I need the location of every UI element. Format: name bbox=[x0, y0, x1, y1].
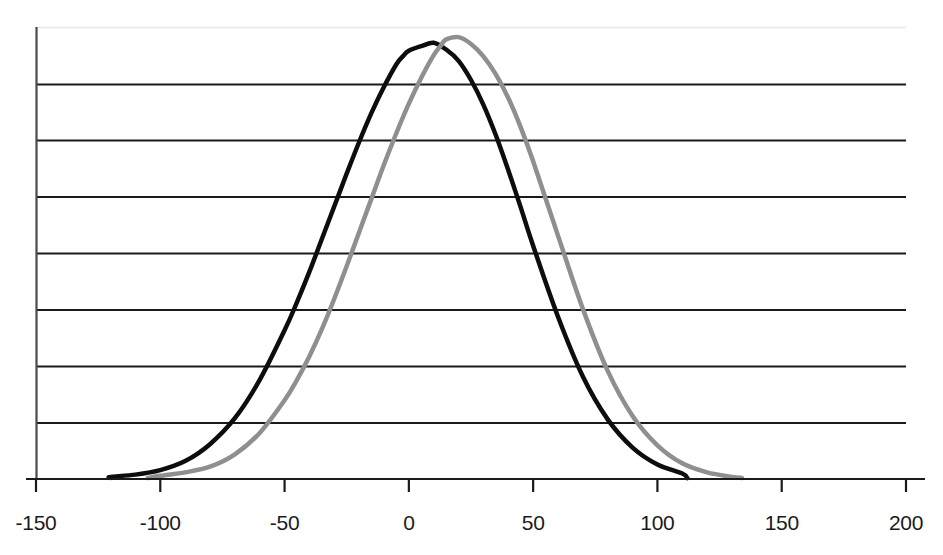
x-tick-label: 150 bbox=[765, 511, 799, 535]
x-tick-label: 0 bbox=[403, 511, 414, 535]
x-tick-label: -50 bbox=[270, 511, 299, 535]
x-tick-label: 200 bbox=[889, 511, 923, 535]
x-tick-label: 100 bbox=[640, 511, 674, 535]
x-tick-label: -100 bbox=[140, 511, 181, 535]
x-axis-ticks bbox=[36, 479, 906, 492]
x-tick-label: -150 bbox=[16, 511, 57, 535]
distribution-plot bbox=[0, 0, 943, 555]
x-tick-label: 50 bbox=[522, 511, 545, 535]
chart-figure: -150-100-50050100150200 bbox=[0, 0, 943, 555]
